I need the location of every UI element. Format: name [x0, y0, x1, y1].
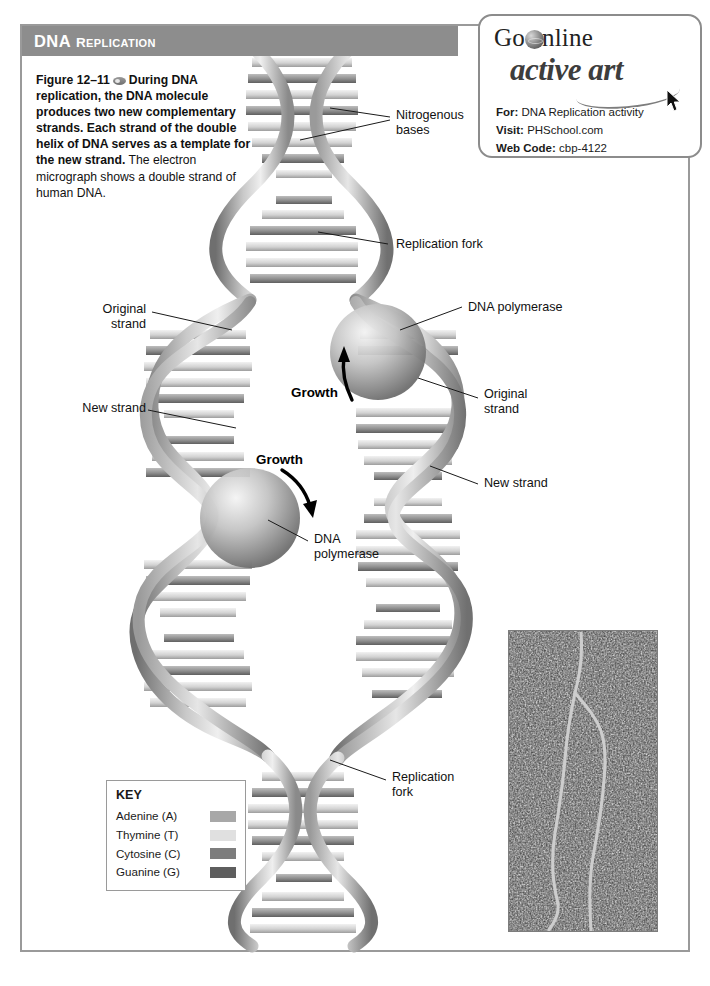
key-title: KEY — [116, 788, 236, 802]
section-header-bar: DNA REPLICATION — [22, 26, 458, 56]
go-online-label-for: For: — [496, 106, 518, 118]
go-online-row-webcode: Web Code: cbp-4122 — [496, 140, 644, 158]
key-item-guanine: Guanine (G) — [116, 863, 236, 882]
go-online-wordmark: Gonline — [494, 24, 593, 52]
key-label-adenine: Adenine (A) — [116, 807, 177, 826]
globe-icon — [525, 30, 544, 49]
go-online-row-for: For: DNA Replication activity — [496, 104, 644, 122]
online-text: nline — [542, 24, 593, 51]
figure-caption: Figure 12–11During DNA replication, the … — [36, 72, 254, 201]
label-original-strand-left: Original strand — [48, 302, 146, 333]
label-replication-fork-bottom: Replication fork — [392, 770, 454, 801]
go-online-label-webcode: Web Code: — [496, 142, 556, 154]
go-text: Go — [494, 24, 525, 51]
label-new-strand-right: New strand — [484, 476, 548, 491]
go-online-value-webcode: cbp-4122 — [559, 142, 607, 154]
page-title-main: DNA — [34, 32, 71, 50]
go-online-info: For: DNA Replication activity Visit: PHS… — [496, 104, 644, 157]
go-online-row-visit: Visit: PHSchool.com — [496, 122, 644, 140]
key-item-adenine: Adenine (A) — [116, 807, 236, 826]
label-new-strand-left: New strand — [36, 401, 146, 416]
figure-number: Figure 12–11 — [36, 73, 110, 87]
caption-oval-icon — [113, 77, 126, 85]
label-growth-lower: Growth — [256, 452, 303, 467]
go-online-label-visit: Visit: — [496, 124, 524, 136]
key-legend: KEY Adenine (A) Thymine (T) Cytosine (C)… — [106, 780, 246, 891]
key-item-thymine: Thymine (T) — [116, 826, 236, 845]
label-dna-polymerase-right: DNA polymerase — [468, 300, 563, 315]
key-item-cytosine: Cytosine (C) — [116, 845, 236, 864]
key-label-guanine: Guanine (G) — [116, 863, 180, 882]
page-title: DNA REPLICATION — [22, 32, 156, 51]
key-label-cytosine: Cytosine (C) — [116, 845, 180, 864]
key-swatch-adenine — [210, 811, 236, 822]
cursor-arrow-icon — [666, 90, 682, 112]
electron-micrograph — [508, 630, 658, 932]
page-title-rest: REPLICATION — [76, 35, 156, 50]
label-nitrogenous-bases: Nitrogenous bases — [396, 108, 464, 139]
key-swatch-thymine — [210, 830, 236, 841]
key-swatch-cytosine — [210, 848, 236, 859]
label-original-strand-right: Original strand — [484, 387, 527, 418]
go-online-value-for: DNA Replication activity — [522, 106, 644, 118]
go-online-box[interactable]: Gonline active art For: DNA Replication … — [478, 14, 702, 158]
key-swatch-guanine — [210, 867, 236, 878]
label-replication-fork-top: Replication fork — [396, 237, 483, 252]
key-label-thymine: Thymine (T) — [116, 826, 178, 845]
label-growth-upper: Growth — [291, 385, 338, 400]
label-dna-polymerase-center: DNA polymerase — [314, 532, 379, 563]
go-online-value-visit[interactable]: PHSchool.com — [527, 124, 603, 136]
